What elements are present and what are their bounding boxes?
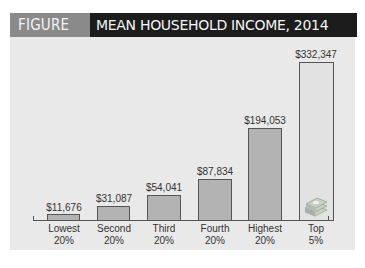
x-axis-tick-right (328, 216, 329, 221)
figure-number: FIGURE 8.2 (10, 13, 90, 37)
category-label: Top5% (286, 223, 346, 247)
value-label: $332,347 (286, 49, 346, 60)
value-label: $31,087 (84, 193, 144, 204)
bar-third (147, 195, 181, 221)
bar-highest (248, 128, 282, 221)
value-label: $54,041 (134, 182, 194, 193)
x-axis (33, 220, 329, 221)
bar-second (97, 206, 130, 221)
figure-title: MEAN HOUSEHOLD INCOME, 2014 (90, 13, 357, 37)
x-axis-tick-left (33, 216, 34, 221)
value-label: $87,834 (185, 166, 245, 177)
figure-header: FIGURE 8.2 MEAN HOUSEHOLD INCOME, 2014 (10, 13, 357, 37)
bar-fourth (198, 179, 232, 221)
value-label: $194,053 (235, 115, 295, 126)
money-stack-icon (303, 196, 329, 218)
